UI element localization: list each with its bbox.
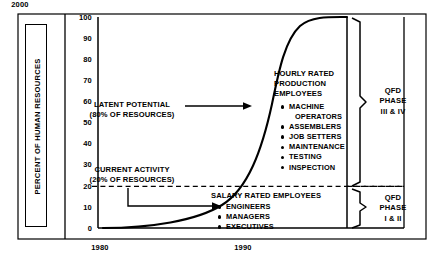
qfd-upper-line-3: III & IV <box>366 107 420 117</box>
hourly-rated-title-line-1: HOURLY RATED <box>274 69 334 79</box>
y-tick-label: 10 <box>62 203 92 212</box>
current-activity-line-1: CURRENT ACTIVITY <box>82 165 182 175</box>
qfd-phase-3-4-brace <box>352 18 366 186</box>
list-item-label: INSPECTION <box>289 163 335 172</box>
y-tick-label: 80 <box>62 55 92 64</box>
list-item: MAINTENANCE <box>281 142 345 152</box>
latent-potential-line-1: LATENT POTENTIAL <box>82 100 182 110</box>
bullet-icon <box>218 215 221 218</box>
qfd-phase-1-2-brace <box>352 189 366 228</box>
list-item: MANAGERS <box>218 212 274 222</box>
hourly-rated-title-line-2: PRODUCTION <box>274 79 334 89</box>
qfd-upper-line-2: PHASE <box>366 96 420 106</box>
bullet-icon <box>218 205 221 208</box>
y-tick-label: 0 <box>62 224 92 233</box>
list-item: MACHINE OPERATORS <box>281 102 345 122</box>
salary-rated-block-title: SALARY RATED EMPLOYEES <box>211 191 321 201</box>
chart-figure: PERCENT OF HUMAN RESOURCES 100 90 80 70 … <box>0 0 443 264</box>
latent-potential-arrowhead <box>243 102 252 110</box>
bullet-icon <box>281 156 284 159</box>
list-item: ASSEMBLERS <box>281 122 345 132</box>
bullet-icon <box>281 135 284 138</box>
list-item: INSPECTION <box>281 163 345 173</box>
latent-potential-line-2: (80% OF RESOURCES) <box>82 110 182 120</box>
list-item-label: EXECUTIVES <box>226 222 274 231</box>
qfd-lower-line-2: PHASE <box>366 203 420 213</box>
current-activity-leader-line <box>128 188 212 206</box>
qfd-lower-line-3: I & II <box>366 214 420 224</box>
hourly-rated-title-line-3: EMPLOYEES <box>274 89 334 99</box>
list-item-label: JOB SETTERS <box>289 132 341 141</box>
current-activity-line-2: (20% OF RESOURCES) <box>82 175 182 185</box>
bullet-icon <box>281 105 284 108</box>
x-tick-label: 1980 <box>80 243 120 252</box>
hourly-rated-list: MACHINE OPERATORS ASSEMBLERS JOB SETTERS… <box>281 102 345 173</box>
list-item-label: TESTING <box>289 152 322 161</box>
current-activity-annotation: CURRENT ACTIVITY (20% OF RESOURCES) <box>82 165 182 185</box>
x-tick-label: 1990 <box>223 243 263 252</box>
y-tick-label: 90 <box>62 34 92 43</box>
y-axis-label: PERCENT OF HUMAN RESOURCES <box>26 25 48 228</box>
list-item: TESTING <box>281 152 345 162</box>
y-tick-label: 100 <box>62 13 92 22</box>
qfd-phase-1-2-label: QFD PHASE I & II <box>366 193 420 224</box>
list-item-label: MACHINE <box>289 102 324 111</box>
list-item-label: MAINTENANCE <box>289 142 345 151</box>
list-item: ENGINEERS <box>218 202 274 212</box>
list-item: JOB SETTERS <box>281 132 345 142</box>
qfd-lower-line-1: QFD <box>366 193 420 203</box>
list-item-label: ASSEMBLERS <box>289 122 341 131</box>
y-axis-label-box: PERCENT OF HUMAN RESOURCES <box>25 24 47 227</box>
list-item-label: MANAGERS <box>226 212 270 221</box>
y-tick-label: 70 <box>62 76 92 85</box>
x-tick-label: 2000 <box>0 0 40 9</box>
hourly-rated-block-title: HOURLY RATED PRODUCTION EMPLOYEES <box>274 69 334 99</box>
salary-rated-list: ENGINEERS MANAGERS EXECUTIVES <box>218 202 274 232</box>
bullet-icon <box>281 146 284 149</box>
list-item-label-cont: OPERATORS <box>289 112 345 122</box>
qfd-upper-line-1: QFD <box>366 86 420 96</box>
y-tick-label: 40 <box>62 139 92 148</box>
latent-potential-annotation: LATENT POTENTIAL (80% OF RESOURCES) <box>82 100 182 120</box>
bullet-icon <box>281 125 284 128</box>
bullet-icon <box>218 225 221 228</box>
list-item: EXECUTIVES <box>218 222 274 232</box>
bullet-icon <box>281 166 284 169</box>
qfd-phase-3-4-label: QFD PHASE III & IV <box>366 86 420 117</box>
list-item-label: ENGINEERS <box>226 202 270 211</box>
